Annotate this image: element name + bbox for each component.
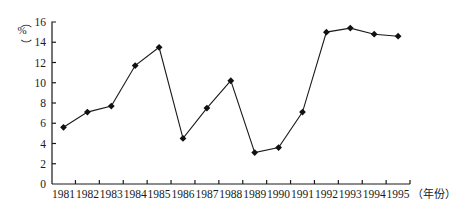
y-axis-title: （ % ） [17,17,32,50]
x-tick-label: 1984 [124,188,147,200]
line-chart: （ % ） 0246810121416 19811982198319841985… [0,0,467,213]
y-tick-label: 12 [35,57,47,69]
x-tick-label: 1987 [195,188,218,200]
y-tick-label: 6 [40,117,46,129]
data-series [60,25,401,156]
diamond-marker-icon [299,109,306,116]
diamond-marker-icon [371,31,378,38]
series-line [64,28,399,153]
y-axis-title-close-paren: ） [19,39,32,50]
y-tick-label: 0 [40,178,46,190]
y-axis-title-percent: % [17,24,26,36]
x-tick-label: 1989 [243,188,266,200]
y-tick-label: 4 [40,138,46,150]
x-tick-label: 1993 [339,188,362,200]
y-tick-label: 16 [35,16,47,28]
x-tick-label: 1981 [52,188,75,200]
x-tick-label: 1983 [100,188,123,200]
y-tick-label: 2 [40,158,46,170]
diamond-marker-icon [395,33,402,40]
x-axis: 1981198219831984198519861987198819891990… [52,180,410,200]
x-tick-label: 1991 [291,188,314,200]
y-tick-label: 8 [40,97,46,109]
y-tick-label: 14 [35,36,47,48]
diamond-marker-icon [275,144,282,151]
x-tick-label: 1982 [76,188,99,200]
diamond-marker-icon [323,29,330,36]
x-tick-label: 1990 [267,188,290,200]
diamond-marker-icon [251,149,258,156]
x-axis-title: （年份） [412,187,456,201]
diamond-marker-icon [84,109,91,116]
x-tick-label: 1995 [387,188,410,200]
x-tick-label: 1986 [172,188,195,200]
diamond-marker-icon [60,124,67,131]
diamond-marker-icon [108,103,115,110]
y-tick-label: 10 [35,77,47,89]
x-tick-label: 1992 [315,188,338,200]
diamond-marker-icon [347,25,354,32]
y-axis: 0246810121416 [35,16,57,190]
x-tick-label: 1985 [148,188,171,200]
x-tick-label: 1988 [219,188,242,200]
x-tick-label: 1994 [363,188,386,200]
